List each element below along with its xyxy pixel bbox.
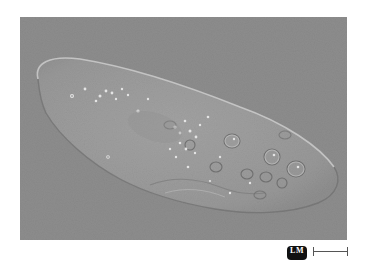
scale-bar-line xyxy=(313,251,348,252)
scale-bar xyxy=(313,247,348,255)
micrograph xyxy=(20,17,347,240)
scale-bar-right-tick xyxy=(347,247,348,256)
paramecium-image xyxy=(20,17,347,240)
lm-badge: LM xyxy=(287,246,307,260)
